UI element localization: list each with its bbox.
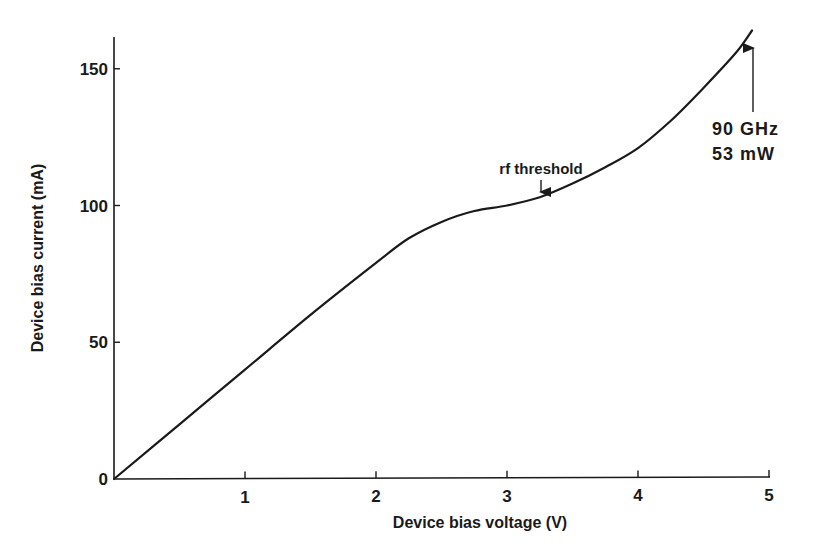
y-tick-label: 50: [89, 333, 108, 352]
y-tick-label: 100: [80, 197, 108, 216]
y-tick-label: 150: [80, 60, 108, 79]
x-axis-title: Device bias voltage (V): [393, 514, 567, 531]
frequency-label: 90 GHz: [712, 119, 779, 139]
rf-threshold-annotation: rf threshold: [499, 160, 582, 192]
figure-caption-fragment: [120, 540, 815, 553]
iv-chart: 050100150 12345 Device bias voltage (V) …: [0, 0, 815, 553]
rf-threshold-label: rf threshold: [499, 160, 582, 177]
x-ticks: 12345: [240, 470, 773, 507]
x-tick-label: 1: [240, 488, 249, 507]
y-axis-title: Device bias current (mA): [29, 164, 46, 353]
x-axis: [114, 477, 770, 479]
iv-curve: [114, 31, 752, 480]
power-label: 53 mW: [712, 144, 775, 164]
x-tick-label: 5: [764, 486, 773, 505]
x-tick-label: 3: [502, 487, 511, 506]
y-tick-label: 0: [99, 470, 108, 489]
axes: [114, 37, 770, 479]
max-output-annotation: 90 GHz 53 mW: [712, 48, 779, 164]
x-tick-label: 2: [371, 487, 380, 506]
x-tick-label: 4: [633, 486, 643, 505]
